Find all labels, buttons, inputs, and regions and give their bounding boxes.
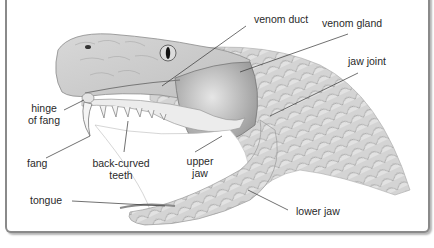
nostril	[85, 45, 91, 49]
fang-tooth	[83, 102, 92, 136]
label-upper-jaw: upper jaw	[180, 155, 220, 179]
label-hinge-of-fang: hinge of fang	[24, 102, 64, 126]
label-tongue: tongue	[30, 194, 62, 206]
label-venom-gland: venom gland	[322, 17, 382, 29]
label-fang: fang	[27, 157, 47, 169]
label-lower-jaw: lower jaw	[296, 205, 340, 217]
label-back-curved-teeth: back-curved teeth	[86, 157, 156, 181]
snake-head-illustration	[0, 0, 434, 248]
label-jaw-joint: jaw joint	[348, 55, 386, 67]
label-venom-duct: venom duct	[254, 13, 308, 25]
fang-hinge	[82, 93, 94, 103]
